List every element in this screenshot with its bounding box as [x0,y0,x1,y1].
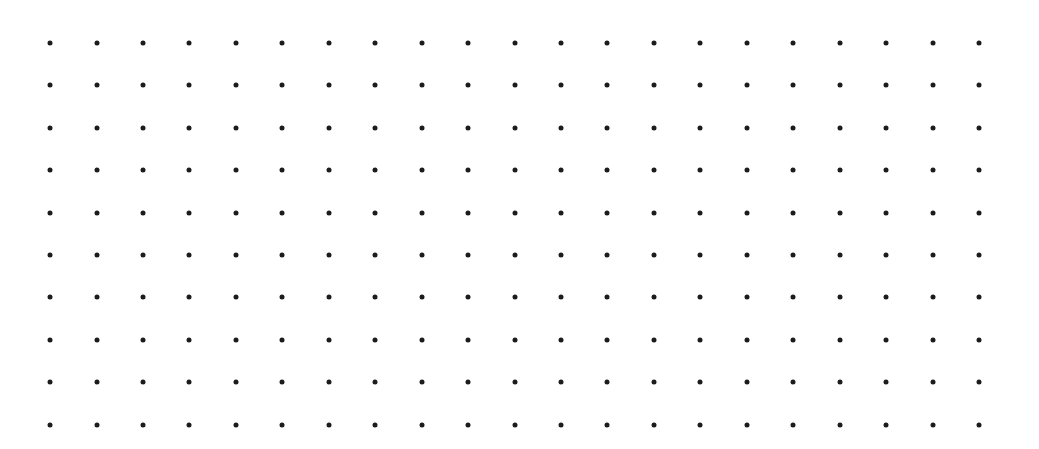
grid-dot [326,83,331,88]
grid-dot [94,295,99,300]
grid-dot [744,125,749,130]
grid-dot [698,295,703,300]
grid-dot [466,41,471,46]
grid-dot [884,41,889,46]
grid-dot [698,210,703,215]
grid-dot [605,337,610,342]
grid-dot [140,41,145,46]
grid-dot [977,210,982,215]
grid-dot [651,380,656,385]
grid-dot [698,422,703,427]
grid-dot [698,125,703,130]
grid-dot [651,168,656,173]
grid-dot [698,83,703,88]
grid-dot [791,422,796,427]
grid-dot [187,380,192,385]
grid-dot [837,337,842,342]
grid-dot [466,83,471,88]
grid-dot [187,210,192,215]
grid-dot [419,380,424,385]
grid-dot [512,125,517,130]
grid-dot [791,168,796,173]
grid-dot [837,83,842,88]
grid-dot [373,380,378,385]
grid-dot [744,83,749,88]
grid-dot [884,83,889,88]
grid-dot [837,253,842,258]
grid-dot [698,337,703,342]
grid-dot [140,295,145,300]
grid-dot [94,168,99,173]
grid-dot [884,295,889,300]
grid-dot [977,253,982,258]
grid-dot [94,83,99,88]
grid-dot [559,337,564,342]
grid-dot [698,168,703,173]
grid-dot [930,41,935,46]
grid-dot [187,83,192,88]
grid-dot [744,295,749,300]
grid-dot [930,168,935,173]
grid-dot [977,168,982,173]
grid-dot [48,422,53,427]
grid-dot [373,168,378,173]
grid-dot [326,422,331,427]
grid-dot [605,41,610,46]
grid-dot [140,83,145,88]
grid-dot [651,83,656,88]
grid-dot [930,337,935,342]
grid-dot [233,380,238,385]
grid-dot [791,210,796,215]
grid-dot [512,168,517,173]
grid-dot [884,380,889,385]
grid-dot [466,253,471,258]
grid-dot [512,41,517,46]
grid-dot [187,337,192,342]
grid-dot [466,295,471,300]
grid-dot [791,380,796,385]
grid-dot [837,41,842,46]
grid-dot [791,41,796,46]
grid-dot [651,253,656,258]
grid-dot [698,41,703,46]
grid-dot [884,337,889,342]
grid-dot [280,422,285,427]
grid-dot [140,337,145,342]
grid-dot [559,168,564,173]
grid-dot [187,422,192,427]
grid-dot [187,125,192,130]
grid-dot [419,41,424,46]
grid-dot [48,83,53,88]
grid-dot [187,253,192,258]
grid-dot [651,337,656,342]
grid-dot [326,295,331,300]
grid-dot [466,210,471,215]
grid-dot [233,295,238,300]
grid-dot [419,422,424,427]
grid-dot [559,41,564,46]
grid-dot [48,337,53,342]
grid-dot [884,253,889,258]
grid-dot [373,125,378,130]
grid-dot [233,210,238,215]
grid-dot [419,210,424,215]
grid-dot [140,125,145,130]
grid-dot [744,380,749,385]
grid-dot [651,125,656,130]
grid-dot [744,422,749,427]
grid-dot [140,422,145,427]
grid-dot [419,83,424,88]
grid-dot [837,422,842,427]
grid-dot [187,295,192,300]
grid-dot [651,210,656,215]
grid-dot [233,253,238,258]
grid-dot [419,253,424,258]
grid-dot [977,380,982,385]
grid-dot [559,83,564,88]
grid-dot [466,380,471,385]
grid-dot [698,380,703,385]
grid-dot [466,337,471,342]
grid-dot [419,168,424,173]
grid-dot [512,295,517,300]
grid-dot [559,295,564,300]
